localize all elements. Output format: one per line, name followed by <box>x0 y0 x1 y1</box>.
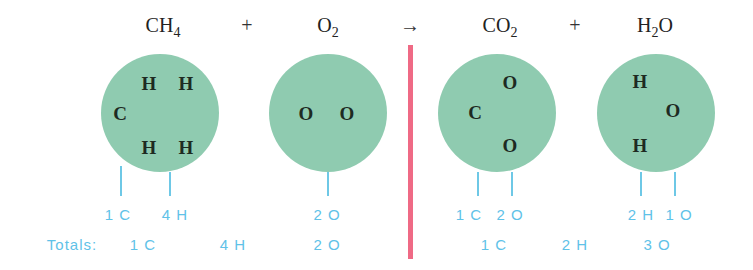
atom-h: H <box>179 137 194 159</box>
atom-h: H <box>142 73 157 95</box>
tick-line <box>674 172 676 196</box>
total-reactants-c: 1 C <box>130 236 156 253</box>
total-products-o: 3 O <box>643 236 670 253</box>
tick-line <box>640 172 642 196</box>
count-ch4-h: 4 H <box>162 206 188 223</box>
atom-o: O <box>503 72 518 94</box>
total-products-c: 1 C <box>481 236 507 253</box>
count-co2-o: 2 O <box>496 206 523 223</box>
molecule-o2 <box>269 54 387 172</box>
count-h2o-o: 1 O <box>665 206 692 223</box>
molecule-co2 <box>438 54 556 172</box>
atom-o: O <box>340 103 355 125</box>
atom-o: O <box>299 103 314 125</box>
count-h2o-h: 2 H <box>628 206 654 223</box>
atom-o: O <box>503 135 518 157</box>
molecule-h2o <box>597 54 715 172</box>
total-reactants-o: 2 O <box>313 236 340 253</box>
formula-co2: CO2 <box>483 14 518 41</box>
reaction-divider <box>408 45 413 259</box>
reaction-arrow: → <box>400 14 420 37</box>
atom-h: H <box>633 135 648 157</box>
total-reactants-h: 4 H <box>220 236 246 253</box>
count-co2-c: 1 C <box>456 206 482 223</box>
tick-line <box>169 172 171 196</box>
atom-h: H <box>142 137 157 159</box>
tick-line <box>477 172 479 196</box>
tick-line <box>120 166 122 196</box>
formula-ch4: CH4 <box>146 14 181 41</box>
count-ch4-c: 1 C <box>105 206 131 223</box>
formula-h2o: H2O <box>637 14 673 41</box>
atom-o: O <box>666 100 681 122</box>
formula-o2: O2 <box>317 14 338 41</box>
total-products-h: 2 H <box>562 236 588 253</box>
tick-line <box>327 172 329 196</box>
plus-sign: + <box>241 14 252 37</box>
atom-c: C <box>113 103 127 125</box>
count-o2-o: 2 O <box>313 206 340 223</box>
tick-line <box>511 172 513 196</box>
plus-sign: + <box>569 14 580 37</box>
totals-label: Totals: <box>47 236 97 253</box>
atom-c: C <box>468 102 482 124</box>
atom-h: H <box>179 73 194 95</box>
atom-h: H <box>633 71 648 93</box>
